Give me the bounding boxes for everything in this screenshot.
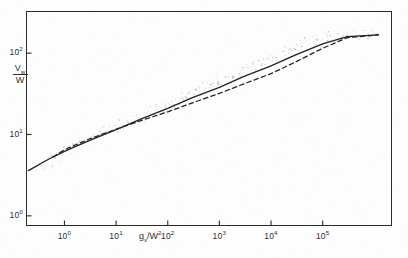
x-tick-label: 103 — [204, 231, 234, 241]
y-tick-label: 100 — [1, 210, 23, 220]
figure-container: Vw W gx/W2 100101102 100101102103104105 — [0, 0, 408, 258]
y-axis-label: Vw W — [8, 64, 32, 86]
y-axis-label-numerator: Vw — [8, 64, 32, 74]
y-tick-label: 102 — [1, 47, 23, 57]
plot-frame — [26, 11, 392, 226]
x-tick-label: 104 — [256, 231, 286, 241]
x-tick-label: 102 — [153, 231, 183, 241]
y-axis-label-denominator: W — [8, 76, 32, 86]
y-tick-label: 101 — [1, 129, 23, 139]
x-tick-label: 105 — [308, 231, 338, 241]
x-tick-label: 101 — [101, 231, 131, 241]
x-tick-label: 100 — [49, 231, 79, 241]
